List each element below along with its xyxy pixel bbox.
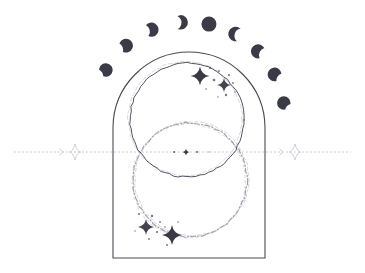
background [0,0,365,273]
artboard: Celestial Arch with Moon Phases and Vesi… [0,0,365,273]
celestial-arch-illustration: Celestial Arch with Moon Phases and Vesi… [0,0,365,273]
moon-full-moon [201,17,216,32]
